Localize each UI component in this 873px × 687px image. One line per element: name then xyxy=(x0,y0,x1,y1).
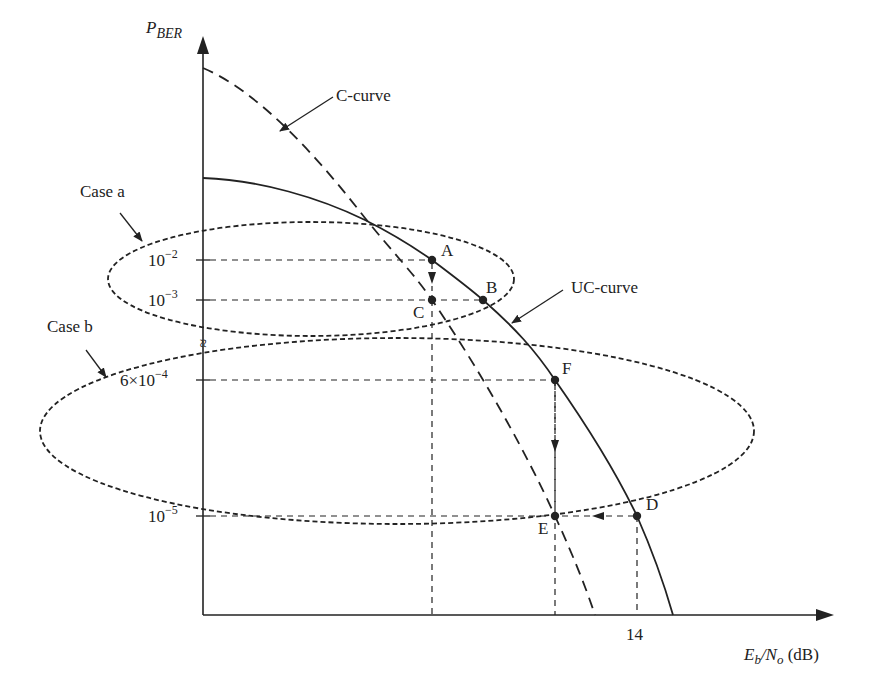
arrow-f-to-e-icon xyxy=(551,440,559,452)
case-b-label: Case b xyxy=(47,317,93,336)
x-axis-label: Eb/No (dB) xyxy=(743,645,819,667)
y-tick-label-1e-2: 10−2 xyxy=(148,247,178,270)
y-tick-label-1e-5: 10−5 xyxy=(148,503,178,526)
y-axis-label: PBER xyxy=(145,18,182,41)
uc-curve xyxy=(203,178,673,615)
uc-curve-label: UC-curve xyxy=(571,278,638,297)
label-point-a: A xyxy=(441,241,454,260)
point-e xyxy=(551,512,559,520)
case-b-leader xyxy=(86,350,106,377)
label-point-d: D xyxy=(646,495,658,514)
ber-diagram: PBER Eb/No (dB) 14 10−2 10−3 6×10−4 10−5… xyxy=(0,0,873,687)
y-tick-label-1e-3: 10−3 xyxy=(148,287,178,310)
point-a xyxy=(428,256,436,264)
axes xyxy=(197,36,834,621)
c-curve-leader xyxy=(280,97,333,131)
arrow-d-to-e-icon xyxy=(592,512,604,520)
case-a-leader xyxy=(120,213,142,241)
point-d xyxy=(633,512,641,520)
x-axis-arrow-icon xyxy=(816,609,834,621)
axis-break-icon: ≈ xyxy=(195,339,212,348)
label-point-e: E xyxy=(538,519,548,538)
c-curve xyxy=(203,68,595,615)
x-tick-14: 14 xyxy=(626,625,644,644)
label-point-f: F xyxy=(562,359,571,378)
y-axis-arrow-icon xyxy=(197,36,209,54)
label-point-c: C xyxy=(413,303,424,322)
point-b xyxy=(479,296,487,304)
case-a-ellipse xyxy=(108,222,514,336)
arrow-a-to-c-icon xyxy=(428,272,436,284)
label-point-b: B xyxy=(486,278,497,297)
c-curve-label: C-curve xyxy=(336,86,391,105)
point-f xyxy=(551,376,559,384)
case-a-label: Case a xyxy=(80,182,125,201)
uc-curve-leader xyxy=(512,290,563,323)
point-c xyxy=(428,296,436,304)
transition-arrows xyxy=(428,264,604,520)
